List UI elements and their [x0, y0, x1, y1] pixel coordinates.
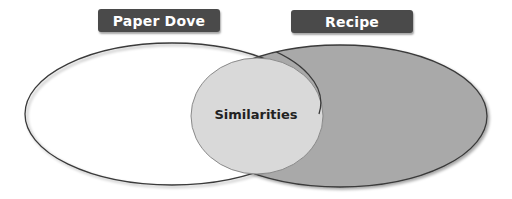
venn-svg — [0, 0, 512, 199]
similarities-label: Similarities — [195, 107, 317, 122]
recipe-label: Recipe — [291, 10, 413, 33]
paper-dove-label: Paper Dove — [98, 9, 220, 32]
venn-diagram — [0, 0, 512, 199]
